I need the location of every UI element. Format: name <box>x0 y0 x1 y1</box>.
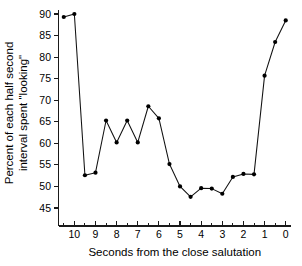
y-tick-label-90: 90 <box>39 8 51 20</box>
axes <box>59 10 292 226</box>
x-axis-ticks <box>64 221 286 226</box>
x-tick-label-6: 6 <box>156 228 162 240</box>
data-point <box>262 74 266 78</box>
y-tick-label-45: 45 <box>39 202 51 214</box>
data-series-line <box>64 14 286 197</box>
y-axis-tick-labels: 45505560657075808590 <box>39 8 51 214</box>
data-point <box>167 162 171 166</box>
x-tick-label-7: 7 <box>135 228 141 240</box>
data-point <box>189 195 193 199</box>
x-tick-label-2: 2 <box>241 228 247 240</box>
data-point <box>104 118 108 122</box>
y-tick-label-65: 65 <box>39 115 51 127</box>
x-tick-label-5: 5 <box>177 228 183 240</box>
data-point <box>136 140 140 144</box>
y-axis-title: Percent of each half secondinterval spen… <box>3 42 29 185</box>
data-point <box>178 184 182 188</box>
data-point <box>93 171 97 175</box>
data-point <box>83 173 87 177</box>
x-tick-label-4: 4 <box>198 228 204 240</box>
x-tick-label-9: 9 <box>93 228 99 240</box>
y-tick-label-75: 75 <box>39 72 51 84</box>
y-tick-label-60: 60 <box>39 137 51 149</box>
chart-figure: 45505560657075808590 109876543210 Second… <box>0 0 302 266</box>
data-point <box>72 12 76 16</box>
y-tick-label-85: 85 <box>39 29 51 41</box>
data-point <box>115 140 119 144</box>
data-point <box>210 187 214 191</box>
x-axis-tick-labels: 109876543210 <box>69 228 289 240</box>
x-tick-label-8: 8 <box>114 228 120 240</box>
data-point <box>220 192 224 196</box>
data-point <box>62 15 66 19</box>
y-tick-label-80: 80 <box>39 51 51 63</box>
x-tick-label-3: 3 <box>219 228 225 240</box>
x-axis-title: Seconds from the close salutation <box>88 246 261 258</box>
x-tick-label-10: 10 <box>69 228 81 240</box>
y-tick-label-55: 55 <box>39 158 51 170</box>
data-point <box>273 40 277 44</box>
data-point <box>125 118 129 122</box>
data-point <box>284 18 288 22</box>
y-tick-label-50: 50 <box>39 180 51 192</box>
y-axis-title-line-2: interval spent "looking" <box>17 55 29 171</box>
data-point <box>146 104 150 108</box>
y-axis-ticks <box>54 14 59 208</box>
data-point <box>252 172 256 176</box>
data-point <box>157 116 161 120</box>
y-tick-label-70: 70 <box>39 94 51 106</box>
data-point <box>231 175 235 179</box>
data-point <box>241 172 245 176</box>
x-tick-label-0: 0 <box>283 228 289 240</box>
x-tick-label-1: 1 <box>262 228 268 240</box>
data-point <box>199 186 203 190</box>
line-chart: 45505560657075808590 109876543210 Second… <box>0 0 302 266</box>
y-axis-title-line-1: Percent of each half second <box>3 42 15 185</box>
